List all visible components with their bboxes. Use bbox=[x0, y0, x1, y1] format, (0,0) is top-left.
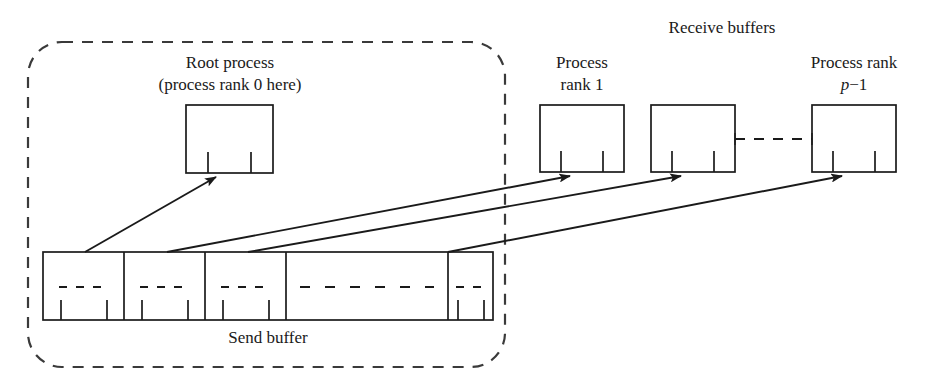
process-rank-1-label: Process rank 1 bbox=[556, 52, 608, 96]
arrow-to-middle bbox=[248, 176, 681, 252]
root-process-buffer bbox=[186, 105, 273, 173]
process-rank-1-label-line2: rank 1 bbox=[556, 74, 608, 96]
process-rank-p-label-line2: p−1 bbox=[811, 74, 897, 96]
send-buffer bbox=[43, 252, 493, 320]
diagram-canvas bbox=[0, 0, 928, 390]
receive-buffer-rank-1 bbox=[540, 105, 624, 172]
root-process-label-line2: (process rank 0 here) bbox=[158, 74, 301, 96]
process-rank-1-label-line1: Process bbox=[556, 52, 608, 74]
mpi-scatter-diagram: Receive buffers Root process (process ra… bbox=[0, 0, 928, 390]
root-process-label: Root process (process rank 0 here) bbox=[158, 52, 301, 96]
receive-buffer-rank-p-minus-1 bbox=[812, 105, 896, 172]
receive-buffer-middle bbox=[651, 105, 735, 172]
process-rank-p-label-line1: Process rank bbox=[811, 52, 897, 74]
process-rank-p-label: Process rank p−1 bbox=[811, 52, 897, 96]
arrow-to-root-process bbox=[85, 177, 216, 252]
process-rank-p-offset: −1 bbox=[849, 75, 867, 94]
receive-buffers-label: Receive buffers bbox=[669, 17, 776, 38]
send-buffer-label: Send buffer bbox=[228, 327, 307, 348]
receive-buffer-ellipsis bbox=[735, 133, 812, 145]
root-process-label-line1: Root process bbox=[158, 52, 301, 74]
